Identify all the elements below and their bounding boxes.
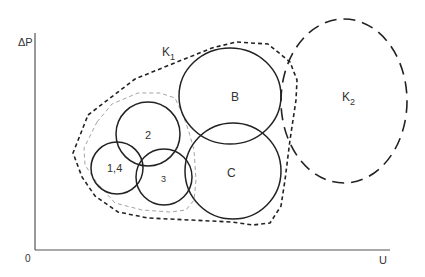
origin-label: 0: [25, 253, 31, 264]
y-axis-label: ΔP: [18, 36, 33, 48]
diagram-canvas: ΔP 0 U K1 K2 B C 2 1,4 3: [0, 0, 425, 277]
k1-label: K1: [162, 45, 175, 62]
circle-1-4-label: 1,4: [107, 162, 122, 174]
circle-b: [179, 48, 281, 144]
x-axis-label: U: [379, 254, 387, 266]
circle-2-label: 2: [145, 129, 151, 141]
circle-b-label: B: [231, 90, 239, 104]
inner-boundary: [84, 93, 196, 212]
circle-3-label: 3: [161, 174, 166, 184]
k2-label: K2: [342, 90, 355, 107]
circle-c-label: C: [227, 166, 236, 180]
